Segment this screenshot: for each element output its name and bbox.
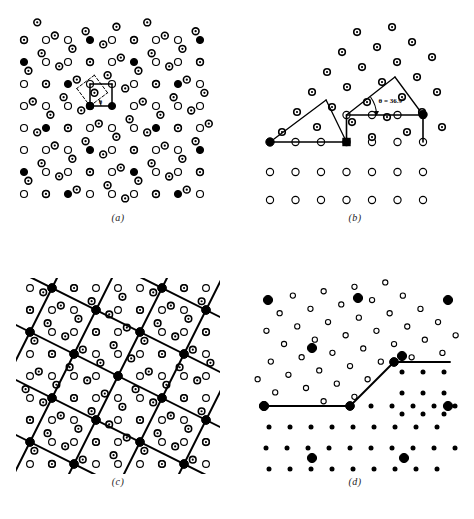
lattice-b-atom-small [369, 446, 374, 451]
lattice-a-site [43, 169, 50, 176]
lattice-a-site [391, 341, 396, 346]
lattice-b-site [75, 425, 82, 432]
lattice-a-site [49, 329, 56, 336]
coincidence-site [152, 124, 159, 131]
lattice-b-site [161, 142, 168, 149]
coincidence-site [353, 293, 362, 302]
lattice-b-site [141, 448, 148, 455]
lattice-b-site [56, 63, 63, 70]
lattice-a-site [352, 284, 357, 289]
lattice-b-site [203, 439, 210, 446]
boundary-node-top [390, 358, 399, 367]
lattice-a-site [394, 196, 401, 203]
lattice-b-site [294, 109, 301, 116]
lattice-b-atom-small [432, 446, 437, 451]
coincidence-site [20, 168, 27, 175]
lattice-b-site [87, 169, 94, 176]
lattice-a-site [175, 103, 182, 110]
lattice-a-site [266, 168, 273, 175]
lattice-b-atom-small [390, 404, 395, 409]
lattice-a-site [65, 37, 72, 44]
lattice-b-site [159, 351, 166, 358]
lattice-b-site [161, 32, 168, 39]
lattice-a-site [49, 373, 56, 380]
lattice-b-site [51, 142, 58, 149]
lattice-b-site [324, 69, 331, 76]
lattice-b-atom-small [306, 446, 311, 451]
lattice-b-site [188, 107, 195, 114]
lattice-b-site [349, 119, 356, 126]
lattice-b-site [159, 461, 166, 468]
lattice-b-site [168, 302, 175, 309]
panel-d-label: (d) [252, 476, 458, 487]
lattice-b-atom-small [400, 391, 405, 396]
lattice-a-site [181, 329, 188, 336]
lattice-b-atom-small [442, 370, 447, 375]
lattice-b-site [75, 315, 82, 322]
panel-d [252, 278, 458, 474]
lattice-b-site [404, 129, 411, 136]
lattice-b-site [359, 64, 366, 71]
lattice-a-site [387, 311, 392, 316]
lattice-b-site [82, 28, 89, 35]
lattice-a-site [175, 147, 182, 154]
lattice-b-site [192, 138, 199, 145]
lattice-a-site [347, 363, 352, 368]
lattice-a-site [317, 168, 324, 175]
lattice-b-site [79, 456, 86, 463]
lattice-b-site [198, 408, 205, 415]
lattice-b-site [154, 430, 161, 437]
lattice-b-site [60, 94, 67, 101]
lattice-a-site [374, 328, 379, 333]
lattice-b-site [167, 412, 174, 419]
lattice-b-group [21, 19, 213, 202]
coincidence-node [158, 284, 167, 293]
lattice-b-atom-small [393, 467, 398, 472]
lattice-a-site [153, 37, 160, 44]
lattice-a-site [181, 439, 188, 446]
lattice-a-site [137, 351, 144, 358]
lattice-a-site [93, 395, 100, 402]
lattice-a-site [109, 37, 116, 44]
lattice-b-site [80, 346, 87, 353]
lattice-a-site [115, 351, 122, 358]
lattice-b-site [78, 107, 85, 114]
lattice-b-site [179, 155, 186, 162]
lattice-b-site [31, 337, 38, 344]
coincidence-site [174, 80, 181, 87]
lattice-b-site [137, 417, 144, 424]
lattice-b-site [113, 23, 120, 30]
lattice-b-site [192, 28, 199, 35]
lattice-b-atom-small [414, 425, 419, 430]
lattice-a-site [268, 359, 273, 364]
lattice-a-site [109, 191, 116, 198]
lattice-a-site [422, 337, 427, 342]
lattice-b-site [141, 338, 148, 345]
lattice-b-atom-small [288, 467, 293, 472]
lattice-b-site [166, 63, 173, 70]
coincidence-site [307, 453, 316, 462]
boundary-node-step [346, 402, 355, 411]
lattice-b-site [148, 160, 155, 167]
lattice-b-atom-small [369, 404, 374, 409]
lattice-b-site [69, 45, 76, 52]
lattice-b-site [183, 76, 190, 83]
panel-d-diagram [252, 278, 458, 474]
coincidence-node [136, 438, 145, 447]
lattice-a-site [277, 311, 282, 316]
lower-grain-d [264, 370, 458, 472]
lattice-b-atom-small [432, 404, 437, 409]
lattice-b-atom-small [442, 391, 447, 396]
lattice-a-site [394, 168, 401, 175]
lattice-a-site [43, 37, 50, 44]
panel-c-label: (c) [18, 476, 218, 487]
lattice-b-site [135, 177, 142, 184]
lattice-b-atom-small [327, 446, 332, 451]
lattice-a-site [292, 196, 299, 203]
lattice-b-site [117, 164, 124, 171]
lattice-b-site [38, 50, 45, 57]
lattice-b-site [314, 124, 321, 131]
lattice-a-site [43, 59, 50, 66]
lattice-b-site [119, 404, 126, 411]
lattice-a-site [175, 59, 182, 66]
